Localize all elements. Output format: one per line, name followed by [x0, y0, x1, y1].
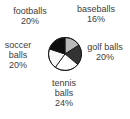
label-line: balls — [52, 88, 76, 98]
label-line: 20% — [13, 16, 47, 26]
label-line: 20% — [5, 60, 32, 70]
pie-chart-figure: footballs 20% baseballs 16% soccer balls… — [0, 0, 130, 119]
label-line: footballs — [13, 6, 47, 16]
pie-label-tennis-balls: tennis balls 24% — [52, 78, 76, 108]
pie-label-baseballs: baseballs 16% — [77, 4, 115, 24]
pie-label-soccer-balls: soccer balls 20% — [5, 40, 32, 70]
label-line: tennis — [52, 78, 76, 88]
pie-chart — [46, 35, 84, 73]
label-line: baseballs — [77, 4, 115, 14]
label-line: 24% — [52, 98, 76, 108]
pie-label-footballs: footballs 20% — [13, 6, 47, 26]
pie-label-golf-balls: golf balls 20% — [87, 42, 123, 62]
label-line: 20% — [87, 52, 123, 62]
label-line: 16% — [77, 14, 115, 24]
label-line: golf balls — [87, 42, 123, 52]
label-line: soccer — [5, 40, 32, 50]
label-line: balls — [5, 50, 32, 60]
